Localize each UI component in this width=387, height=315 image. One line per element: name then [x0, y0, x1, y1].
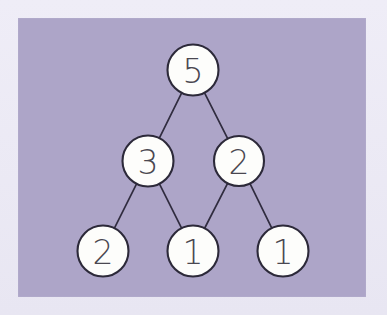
tree-edge-left-to-leaf-left: [114, 183, 137, 228]
tree-node-5-root[interactable]: 5: [168, 45, 219, 96]
tree-node-label: 2: [229, 143, 250, 182]
tree-node-2-leaf-left[interactable]: 2: [78, 226, 129, 277]
tree-node-label: 1: [273, 233, 294, 272]
tree-node-2-right[interactable]: 2: [214, 136, 264, 186]
tree-edge-right-to-leaf-right: [250, 183, 272, 229]
tree-edge-left-to-leaf-middle: [159, 183, 182, 228]
tree-edge-root-to-right: [204, 92, 228, 139]
tree-graphic: 532211: [0, 0, 387, 315]
tree-node-label: 5: [183, 52, 204, 91]
tree-node-label: 2: [93, 233, 114, 272]
tree-nodes-group: 532211: [78, 45, 309, 277]
tree-edge-right-to-leaf-middle: [204, 183, 227, 229]
tree-edge-root-to-left: [159, 92, 182, 138]
diagram-canvas: 532211: [0, 0, 387, 315]
tree-node-1-leaf-right[interactable]: 1: [258, 226, 309, 277]
tree-node-3-left[interactable]: 3: [123, 136, 174, 187]
tree-node-label: 3: [138, 143, 159, 182]
tree-node-1-leaf-middle[interactable]: 1: [168, 226, 219, 277]
tree-node-label: 1: [183, 233, 204, 272]
